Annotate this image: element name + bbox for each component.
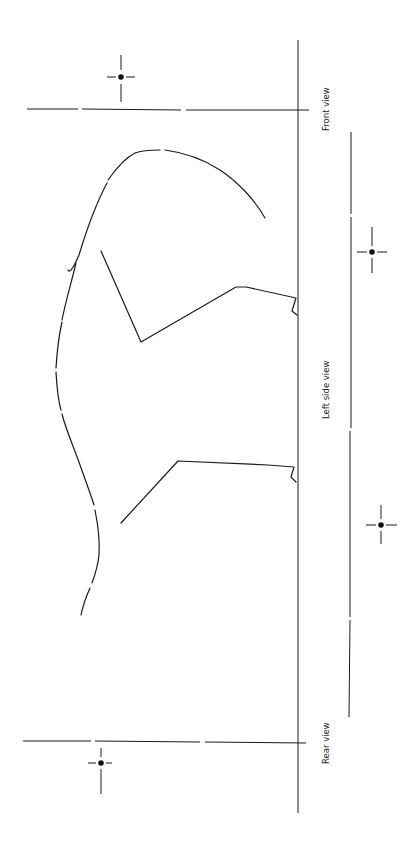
rear-wheel-arch: [121, 461, 296, 523]
rear-wheel-center-mark: [366, 505, 397, 544]
roof-profile-curve: [56, 150, 265, 615]
rear-view-horizontal-line: [23, 741, 306, 743]
technical-drawing: [0, 0, 407, 846]
front-view-label: Front view: [321, 87, 331, 131]
front-wheel-center-mark: [357, 227, 387, 273]
front-view-center-mark: [107, 55, 135, 102]
front-wheel-arch: [101, 251, 297, 342]
secondary-reference-line: [349, 132, 351, 717]
rear-view-label: Rear view: [321, 722, 331, 764]
rear-view-center-mark: [88, 748, 112, 794]
left-side-view-label: Left side view: [321, 361, 331, 419]
front-view-horizontal-line: [27, 109, 309, 110]
